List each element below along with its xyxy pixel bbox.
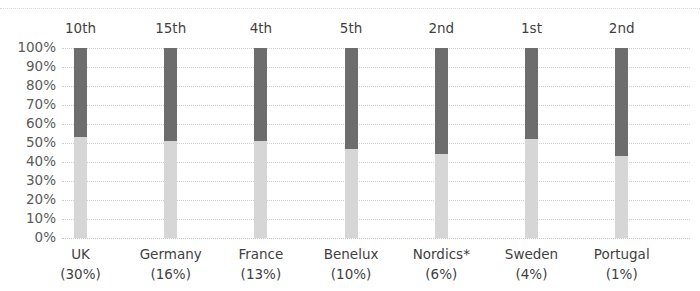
category-name: Nordics* [389,245,493,265]
gridline [62,124,690,125]
x-axis-category-label: Sweden(4%) [480,245,584,284]
rank-annotation-label: 2nd [395,22,487,36]
y-axis-tick-label: 60% [0,117,56,131]
category-share: (1%) [570,265,674,285]
bar[interactable] [435,48,448,238]
category-share: (13%) [209,265,313,285]
y-axis-tick-label: 80% [0,79,56,93]
category-name: France [209,245,313,265]
x-axis-category-label: Germany(16%) [119,245,223,284]
gridline [62,48,690,49]
rank-annotation-label: 1st [486,22,578,36]
category-share: (4%) [480,265,584,285]
bar[interactable] [345,48,358,238]
x-axis-category-label: Benelux(10%) [299,245,403,284]
category-name: Portugal [570,245,674,265]
bar-segment-lower[interactable] [615,156,628,238]
bar[interactable] [525,48,538,238]
bar-segment-lower[interactable] [345,149,358,238]
category-share: (10%) [299,265,403,285]
bar-segment-lower[interactable] [164,141,177,238]
y-axis: 100%90%80%70%60%50%40%30%20%10%0% [0,40,56,246]
category-name: Sweden [480,245,584,265]
bar-segment-lower[interactable] [74,137,87,238]
category-share: (30%) [29,265,133,285]
x-axis-category-label: Portugal(1%) [570,245,674,284]
gridline [62,86,690,87]
bar-segment-upper[interactable] [164,48,177,141]
gridline [62,200,690,201]
bar-segment-upper[interactable] [74,48,87,137]
x-axis-category-label: UK(30%) [29,245,133,284]
x-axis-category-label: France(13%) [209,245,313,284]
bar[interactable] [254,48,267,238]
bar-segment-upper[interactable] [435,48,448,154]
category-name: Benelux [299,245,403,265]
category-share: (6%) [389,265,493,285]
rank-annotation-label: 10th [35,22,127,36]
bar[interactable] [164,48,177,238]
rank-annotation-label: 15th [125,22,217,36]
gridline [62,238,690,239]
bar[interactable] [615,48,628,238]
rank-annotation-label: 5th [305,22,397,36]
y-axis-tick-label: 70% [0,98,56,112]
y-axis-tick-label: 20% [0,193,56,207]
bar-segment-upper[interactable] [615,48,628,156]
category-name: Germany [119,245,223,265]
top-divider [0,8,700,9]
y-axis-tick-label: 10% [0,212,56,226]
category-share: (16%) [119,265,223,285]
gridline [62,219,690,220]
rank-annotation-label: 2nd [576,22,668,36]
bar-segment-lower[interactable] [435,154,448,238]
y-axis-tick-label: 40% [0,155,56,169]
chart-container: 100%90%80%70%60%50%40%30%20%10%0% 10thUK… [0,0,700,291]
bar-segment-upper[interactable] [525,48,538,139]
y-axis-tick-label: 30% [0,174,56,188]
rank-annotation-label: 4th [215,22,307,36]
bar-segment-lower[interactable] [525,139,538,238]
category-name: UK [29,245,133,265]
y-axis-tick-label: 50% [0,136,56,150]
gridline [62,181,690,182]
bar-segment-upper[interactable] [254,48,267,141]
bar-segment-upper[interactable] [345,48,358,149]
gridline [62,162,690,163]
gridline [62,143,690,144]
y-axis-tick-label: 100% [0,41,56,55]
gridline [62,67,690,68]
y-axis-tick-label: 90% [0,60,56,74]
y-axis-tick-label: 0% [0,231,56,245]
x-axis-category-label: Nordics*(6%) [389,245,493,284]
bar[interactable] [74,48,87,238]
plot-area [62,48,690,238]
bar-segment-lower[interactable] [254,141,267,238]
gridline [62,105,690,106]
